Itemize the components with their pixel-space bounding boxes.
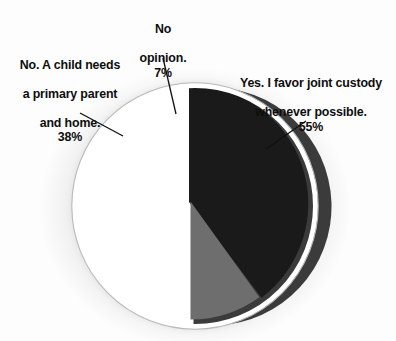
slice-value-yes: 55% xyxy=(228,120,394,134)
slice-label-no-line2: a primary parent xyxy=(23,87,118,101)
slice-label-no-opinion: No opinion. 7% xyxy=(117,8,209,94)
slice-label-no-line1: No. A child needs xyxy=(20,58,121,72)
slice-label-no-line3: and home. xyxy=(40,116,101,130)
chart-plot-area: No. A child needs a primary parent and h… xyxy=(0,0,396,341)
slice-label-no-opinion-line2: opinion. xyxy=(140,51,187,65)
slice-label-yes-line1: Yes. I favor joint custody xyxy=(240,76,382,90)
slice-label-yes: Yes. I favor joint custody whenever poss… xyxy=(228,62,394,148)
slice-value-no-opinion: 7% xyxy=(117,66,209,80)
slice-value-no: 38% xyxy=(4,130,136,144)
pie-chart-figure: No. A child needs a primary parent and h… xyxy=(0,0,396,341)
slice-label-no-opinion-line1: No xyxy=(155,22,171,36)
slice-label-yes-line2: whenever possible. xyxy=(255,105,367,119)
